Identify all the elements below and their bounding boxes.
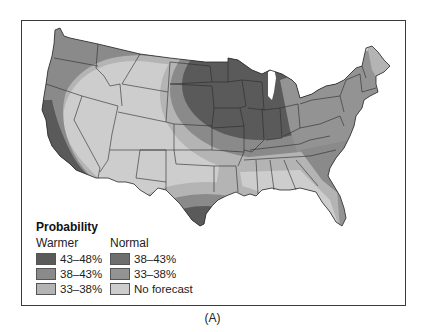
legend-column-normal: Normal 38–43% 33–38% No forecast <box>110 236 193 296</box>
legend-label: 43–48% <box>60 253 102 265</box>
legend-heading-normal: Normal <box>110 236 193 251</box>
legend-label: 38–43% <box>60 268 102 280</box>
legend-swatch <box>110 283 130 295</box>
legend-title: Probability <box>36 220 98 234</box>
legend-item: 33–38% <box>110 266 193 281</box>
legend-item: 38–43% <box>36 266 102 281</box>
legend-label: 33–38% <box>134 268 176 280</box>
legend-swatch <box>110 268 130 280</box>
legend-heading-warmer: Warmer <box>36 236 102 251</box>
legend-swatch <box>36 283 56 295</box>
legend-swatch <box>110 253 130 265</box>
legend-swatch <box>36 253 56 265</box>
legend-item: 38–43% <box>110 251 193 266</box>
legend-item: 33–38% <box>36 281 102 296</box>
legend-label: 38–43% <box>134 253 176 265</box>
legend-label: 33–38% <box>60 283 102 295</box>
legend-label: No forecast <box>134 283 193 295</box>
legend-item: No forecast <box>110 281 193 296</box>
legend-column-warmer: Warmer 43–48% 38–43% 33–38% <box>36 236 102 296</box>
figure-caption: (A) <box>0 311 425 325</box>
legend-item: 43–48% <box>36 251 102 266</box>
legend-swatch <box>36 268 56 280</box>
